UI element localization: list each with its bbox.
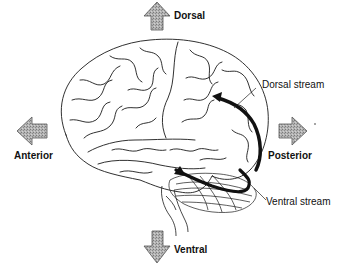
- posterior-arrow-icon: [279, 117, 307, 145]
- ventral-stream-path: [174, 166, 249, 192]
- posterior-label: Posterior: [268, 150, 312, 161]
- ventral-arrow-icon: [144, 231, 170, 263]
- dorsal-stream-label: Dorsal stream: [262, 79, 324, 90]
- dorsal-label: Dorsal: [174, 10, 205, 21]
- anterior-arrow-icon: [17, 117, 47, 145]
- brain-diagram: [0, 0, 343, 271]
- stray-dot: [314, 123, 316, 125]
- brain-illustration: [61, 39, 268, 193]
- diagram-canvas: Dorsal Ventral Anterior Posterior Dorsal…: [0, 0, 343, 271]
- dorsal-arrow-icon: [144, 2, 170, 30]
- anterior-label: Anterior: [14, 150, 53, 161]
- ventral-stream-label: Ventral stream: [266, 196, 330, 207]
- ventral-label: Ventral: [174, 244, 207, 255]
- brainstem-illustration: [161, 186, 188, 236]
- dorsal-stream-leader-line: [234, 88, 256, 108]
- dorsal-stream-path: [212, 92, 260, 170]
- cerebellum-illustration: [169, 173, 256, 212]
